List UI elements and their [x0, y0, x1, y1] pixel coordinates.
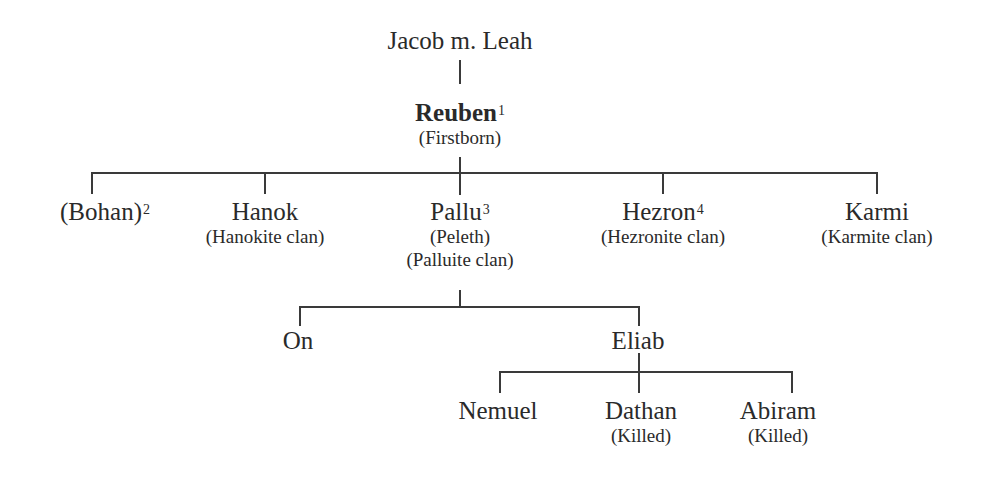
node-pallu: Pallu3 (Peleth) (Palluite clan)	[406, 198, 513, 271]
node-reuben: Reuben1 (Firstborn)	[415, 99, 505, 149]
connector-pallu-sons	[459, 290, 461, 307]
node-on: On	[283, 327, 314, 354]
pallu-sons-bracket	[299, 306, 640, 308]
drop-hanok	[264, 172, 266, 194]
node-jacob-leah: Jacob m. Leah	[387, 27, 532, 54]
node-nemuel: Nemuel	[458, 397, 537, 424]
node-name: Hezron4	[601, 198, 725, 225]
footnote-marker: 3	[483, 202, 490, 217]
drop-abiram	[791, 371, 793, 393]
node-note: (Karmite clan)	[821, 225, 932, 248]
node-name: Nemuel	[458, 397, 537, 424]
footnote-marker: 4	[697, 202, 704, 217]
node-karmi: Karmi (Karmite clan)	[821, 198, 932, 248]
node-name: Dathan	[605, 397, 677, 424]
node-note: (Palluite clan)	[406, 248, 513, 271]
node-bohan: (Bohan)2	[60, 198, 150, 225]
node-note: (Peleth)	[406, 225, 513, 248]
drop-bohan	[91, 172, 93, 194]
sons-bracket	[91, 172, 878, 174]
footnote-marker: 1	[498, 103, 505, 118]
node-hanok: Hanok (Hanokite clan)	[206, 198, 325, 248]
node-hezron: Hezron4 (Hezronite clan)	[601, 198, 725, 248]
node-name: Reuben1	[415, 99, 505, 126]
node-name: Hanok	[206, 198, 325, 225]
connector-reuben-sons	[459, 157, 461, 195]
node-name: Jacob m. Leah	[387, 27, 532, 54]
drop-nemuel	[499, 371, 501, 393]
node-name: Eliab	[612, 327, 665, 354]
drop-on	[299, 306, 301, 326]
node-note: (Killed)	[605, 424, 677, 447]
drop-eliab	[638, 306, 640, 326]
node-name: Abiram	[740, 397, 816, 424]
node-name: On	[283, 327, 314, 354]
node-dathan: Dathan (Killed)	[605, 397, 677, 447]
connector-eliab-sons	[638, 353, 640, 393]
node-note: (Hezronite clan)	[601, 225, 725, 248]
connector-jacob-reuben	[459, 60, 461, 84]
drop-karmi	[876, 172, 878, 194]
node-name: Pallu3	[406, 198, 513, 225]
node-abiram: Abiram (Killed)	[740, 397, 816, 447]
node-name: Karmi	[821, 198, 932, 225]
node-note: (Hanokite clan)	[206, 225, 325, 248]
eliab-sons-bracket	[499, 371, 793, 373]
node-eliab: Eliab	[612, 327, 665, 354]
node-note: (Killed)	[740, 424, 816, 447]
drop-hezron	[662, 172, 664, 194]
node-name: (Bohan)2	[60, 198, 150, 225]
footnote-marker: 2	[143, 202, 150, 217]
node-note: (Firstborn)	[415, 126, 505, 149]
